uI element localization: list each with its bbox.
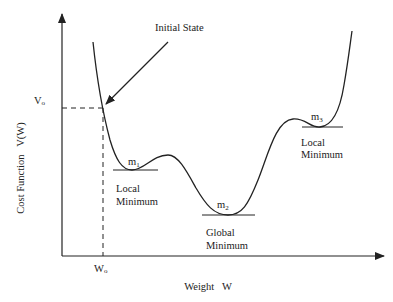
m1-caption-1: Local [116, 183, 140, 194]
initial-state-label: Initial State [155, 22, 204, 33]
m2-caption-2: Minimum [206, 240, 248, 251]
m2-caption-1: Global [206, 227, 235, 238]
v0-label: Vo [34, 95, 46, 107]
m3-caption-1: Local [301, 137, 325, 148]
m3-caption-2: Minimum [301, 149, 343, 160]
y-axis-label: Cost Function V(W) [15, 122, 27, 214]
m2-label: m2 [217, 199, 229, 212]
initial-state-arrow [106, 42, 168, 104]
cost-landscape-diagram: Initial State Vo Wo Weight W Cost Functi… [0, 0, 393, 302]
diagram-canvas: Initial State Vo Wo Weight W Cost Functi… [0, 0, 393, 302]
x-axis-label: Weight W [184, 281, 232, 292]
m1-caption-2: Minimum [116, 196, 158, 207]
w0-label: Wo [94, 263, 108, 275]
m1-label: m1 [128, 156, 140, 169]
m3-label: m3 [311, 111, 323, 124]
